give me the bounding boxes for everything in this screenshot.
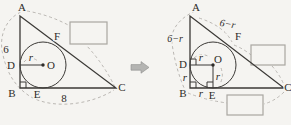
segment-ad-label: 6−r xyxy=(167,33,183,44)
dashed-f-to-box1 xyxy=(234,45,251,55)
dashed-leader-radius-oe xyxy=(220,68,222,84)
dashed-c-to-box2 xyxy=(264,92,284,104)
vertex-label-c: C xyxy=(118,81,125,93)
center-label-o: O xyxy=(214,53,222,65)
center-o-dot xyxy=(41,63,44,66)
radius-oe-label: r xyxy=(216,70,221,82)
touch-point-label-d: D xyxy=(179,58,187,70)
right-angle-mark-b xyxy=(20,82,26,88)
answer-box-bottom xyxy=(227,95,263,115)
touch-point-label-d: D xyxy=(7,59,15,71)
touch-point-label-f: F xyxy=(54,30,60,42)
vertex-label-a: A xyxy=(18,1,26,13)
vertex-label-a: A xyxy=(192,1,200,13)
right-figure: A B C D E F O 6−r 6−r r r r r xyxy=(167,1,291,115)
center-label-o: O xyxy=(47,59,55,71)
dashed-bottom-to-box2 xyxy=(188,93,227,103)
touch-point-label-f: F xyxy=(235,30,241,42)
radius-label: r xyxy=(29,51,34,63)
vertex-label-c: C xyxy=(284,81,291,93)
touch-point-label-e: E xyxy=(209,89,216,101)
right-arrow-icon xyxy=(131,62,149,74)
dashed-box1-to-c xyxy=(272,66,284,85)
vertex-label-b: B xyxy=(8,87,15,99)
segment-db-label: r xyxy=(183,71,188,83)
dashed-leader-c-to-box xyxy=(86,45,115,87)
vertex-label-b: B xyxy=(179,87,186,99)
side-ab-length: 6 xyxy=(3,43,9,55)
segment-af-label: 6−r xyxy=(219,17,236,31)
segment-be-label: r xyxy=(199,87,204,99)
dashed-leader-a-to-box xyxy=(27,11,70,26)
right-angle-mark-b xyxy=(190,82,196,88)
left-figure: A B C D E F O 6 8 r xyxy=(2,1,126,104)
side-bc-length: 8 xyxy=(61,92,67,104)
touch-point-label-e: E xyxy=(34,88,41,100)
geometry-figure: A B C D E F O 6 8 r A xyxy=(0,0,291,125)
radius-do-label: r xyxy=(199,51,204,63)
answer-box-hypotenuse xyxy=(251,45,285,65)
answer-box xyxy=(70,22,107,44)
transform-arrow xyxy=(131,62,149,74)
figure-canvas: A B C D E F O 6 8 r A xyxy=(0,0,291,125)
